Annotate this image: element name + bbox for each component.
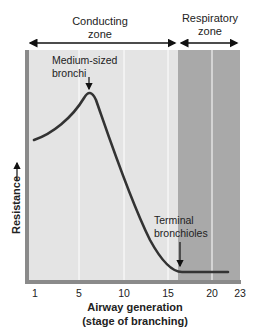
svg-text:bronchioles: bronchioles xyxy=(154,227,208,239)
svg-text:Resistance: Resistance xyxy=(10,176,22,234)
medium-bronchi-label: Medium-sized xyxy=(52,54,118,66)
respiratory-zone-label: Respiratory xyxy=(182,12,239,24)
x-tick-labels: 1 5 10 15 20 23 xyxy=(32,287,246,299)
conducting-zone-label: Conducting xyxy=(72,15,128,27)
svg-text:zone: zone xyxy=(198,25,222,37)
svg-text:bronchi: bronchi xyxy=(52,67,86,79)
y-axis xyxy=(25,50,29,284)
svg-text:10: 10 xyxy=(118,287,130,299)
svg-text:20: 20 xyxy=(206,287,218,299)
svg-text:zone: zone xyxy=(88,28,112,40)
x-axis xyxy=(25,280,241,284)
svg-text:5: 5 xyxy=(76,287,82,299)
y-axis-label: Resistance xyxy=(10,176,22,234)
svg-text:(stage of branching): (stage of branching) xyxy=(82,315,188,327)
svg-text:23: 23 xyxy=(234,287,246,299)
x-axis-label: Airway generation xyxy=(87,301,183,313)
respiratory-zone-region xyxy=(178,50,240,282)
airway-resistance-diagram: Conducting zone Respiratory zone Medium-… xyxy=(0,0,258,335)
svg-text:15: 15 xyxy=(162,287,174,299)
svg-text:1: 1 xyxy=(32,287,38,299)
terminal-bronchioles-label: Terminal xyxy=(154,214,194,226)
